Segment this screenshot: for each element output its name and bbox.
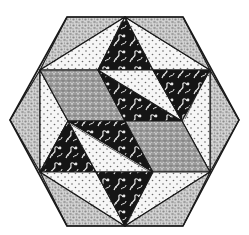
hexagon-quilt-illustration [0,0,249,235]
patch-left-pebble [10,70,40,172]
patch-right-pebble [210,70,239,172]
